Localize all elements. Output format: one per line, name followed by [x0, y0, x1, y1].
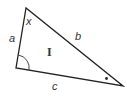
label-c: c	[52, 80, 58, 92]
triangle	[16, 8, 123, 86]
angle-dot-right	[105, 77, 108, 80]
label-a: a	[9, 32, 15, 44]
label-region-I: I	[47, 45, 52, 59]
triangle-diagram: x a b c I	[0, 0, 127, 97]
label-x: x	[25, 15, 32, 27]
angle-arc-bottom-left	[18, 55, 29, 70]
label-b: b	[75, 30, 81, 42]
